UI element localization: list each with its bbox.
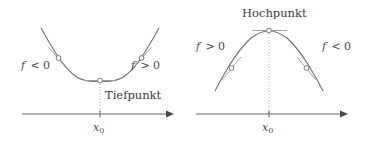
maximum-parabola-panel: Hochpunkt f′ > 0 f′ < 0 x0 xyxy=(195,6,351,135)
minimum-right-slope-label: f′ > 0 xyxy=(130,59,160,73)
minimum-x-axis-arrowhead xyxy=(166,111,174,118)
minimum-vertex-marker-point xyxy=(98,78,103,83)
minimum-x0-axis-label: x0 xyxy=(93,121,104,135)
minimum-left-slope-label: f′ < 0 xyxy=(20,59,50,73)
minimum-left-marker-point xyxy=(56,56,61,61)
maximum-left-slope-label: f′ > 0 xyxy=(195,40,225,54)
maximum-extremum-label: Hochpunkt xyxy=(242,6,307,20)
extrema-diagram-svg: f′ < 0 f′ > 0 Tiefpunkt x0 xyxy=(0,0,377,144)
minimum-parabola-panel: f′ < 0 f′ > 0 Tiefpunkt x0 xyxy=(20,28,174,135)
maximum-parabola-curve xyxy=(215,31,323,92)
minimum-parabola-curve xyxy=(41,28,159,81)
maximum-left-marker-point xyxy=(229,66,234,71)
maximum-x-axis-arrowhead xyxy=(340,111,348,118)
extrema-figure: f′ < 0 f′ > 0 Tiefpunkt x0 xyxy=(0,0,377,144)
maximum-right-slope-label: f′ < 0 xyxy=(321,40,351,54)
maximum-x0-axis-label: x0 xyxy=(262,121,273,135)
maximum-right-marker-point xyxy=(304,66,309,71)
minimum-extremum-label: Tiefpunkt xyxy=(105,88,162,102)
maximum-apex-marker-point xyxy=(267,28,272,33)
